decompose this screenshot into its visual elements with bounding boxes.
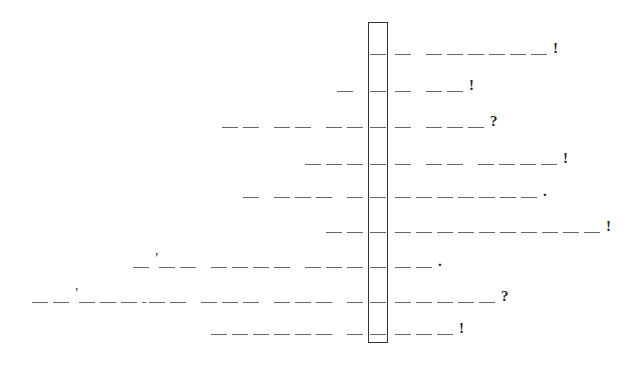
letter-blank[interactable]	[458, 290, 474, 303]
letter-blank[interactable]	[447, 152, 463, 165]
letter-blank[interactable]	[521, 220, 537, 233]
letter-blank[interactable]	[211, 255, 227, 268]
letter-blank[interactable]	[201, 290, 217, 303]
letter-blank[interactable]	[542, 220, 558, 233]
letter-blank[interactable]	[395, 115, 411, 128]
letter-blank[interactable]	[316, 290, 332, 303]
letter-blank[interactable]	[520, 152, 536, 165]
letter-blank[interactable]	[531, 42, 547, 55]
letter-blank[interactable]	[395, 290, 411, 303]
letter-blank[interactable]	[222, 115, 238, 128]
letter-blank[interactable]	[416, 185, 432, 198]
letter-blank[interactable]	[180, 255, 196, 268]
letter-blank[interactable]	[416, 255, 432, 268]
letter-blank[interactable]	[347, 115, 363, 128]
letter-blank[interactable]	[243, 115, 259, 128]
letter-blank[interactable]	[395, 42, 411, 55]
letter-blank[interactable]	[32, 290, 48, 303]
letter-blank[interactable]	[79, 290, 95, 303]
letter-blank[interactable]	[395, 185, 411, 198]
letter-blank[interactable]	[500, 220, 516, 233]
letter-blank[interactable]	[479, 290, 495, 303]
highlighted-letter-blank[interactable]	[370, 42, 386, 55]
letter-blank[interactable]	[232, 255, 248, 268]
letter-blank[interactable]	[316, 322, 332, 335]
letter-blank[interactable]	[426, 42, 442, 55]
letter-blank[interactable]	[159, 255, 175, 268]
highlighted-letter-blank[interactable]	[370, 220, 386, 233]
letter-blank[interactable]	[337, 79, 353, 92]
letter-blank[interactable]	[305, 152, 321, 165]
letter-blank[interactable]	[499, 152, 515, 165]
letter-blank[interactable]	[447, 115, 463, 128]
letter-blank[interactable]	[541, 152, 557, 165]
letter-blank[interactable]	[274, 115, 290, 128]
highlighted-letter-blank[interactable]	[370, 79, 386, 92]
letter-blank[interactable]	[295, 115, 311, 128]
letter-blank[interactable]	[521, 185, 537, 198]
letter-blank[interactable]	[426, 152, 442, 165]
highlighted-letter-blank[interactable]	[370, 322, 386, 335]
letter-blank[interactable]	[395, 79, 411, 92]
letter-blank[interactable]	[347, 220, 363, 233]
letter-blank[interactable]	[347, 255, 363, 268]
letter-blank[interactable]	[347, 290, 363, 303]
letter-blank[interactable]	[316, 185, 332, 198]
letter-blank[interactable]	[347, 322, 363, 335]
letter-blank[interactable]	[232, 322, 248, 335]
letter-blank[interactable]	[395, 220, 411, 233]
letter-blank[interactable]	[500, 185, 516, 198]
letter-blank[interactable]	[295, 290, 311, 303]
letter-blank[interactable]	[253, 322, 269, 335]
letter-blank[interactable]	[437, 290, 453, 303]
letter-blank[interactable]	[274, 290, 290, 303]
letter-blank[interactable]	[274, 255, 290, 268]
letter-blank[interactable]	[326, 220, 342, 233]
letter-blank[interactable]	[584, 220, 600, 233]
letter-blank[interactable]	[170, 290, 186, 303]
letter-blank[interactable]	[447, 79, 463, 92]
letter-blank[interactable]	[243, 185, 259, 198]
letter-blank[interactable]	[222, 290, 238, 303]
letter-blank[interactable]	[326, 115, 342, 128]
letter-blank[interactable]	[468, 115, 484, 128]
highlighted-letter-blank[interactable]	[370, 152, 386, 165]
letter-blank[interactable]	[326, 152, 342, 165]
letter-blank[interactable]	[253, 255, 269, 268]
letter-blank[interactable]	[426, 79, 442, 92]
letter-blank[interactable]	[458, 220, 474, 233]
letter-blank[interactable]	[563, 220, 579, 233]
letter-blank[interactable]	[347, 185, 363, 198]
highlighted-letter-blank[interactable]	[370, 290, 386, 303]
letter-blank[interactable]	[479, 185, 495, 198]
letter-blank[interactable]	[305, 255, 321, 268]
letter-blank[interactable]	[133, 255, 149, 268]
letter-blank[interactable]	[395, 322, 411, 335]
letter-blank[interactable]	[468, 42, 484, 55]
letter-blank[interactable]	[395, 255, 411, 268]
letter-blank[interactable]	[510, 42, 526, 55]
letter-blank[interactable]	[437, 322, 453, 335]
letter-blank[interactable]	[347, 152, 363, 165]
letter-blank[interactable]	[416, 220, 432, 233]
highlighted-letter-blank[interactable]	[370, 185, 386, 198]
letter-blank[interactable]	[447, 42, 463, 55]
letter-blank[interactable]	[211, 322, 227, 335]
letter-blank[interactable]	[149, 290, 165, 303]
letter-blank[interactable]	[100, 290, 116, 303]
letter-blank[interactable]	[489, 42, 505, 55]
highlighted-letter-blank[interactable]	[370, 115, 386, 128]
letter-blank[interactable]	[295, 185, 311, 198]
letter-blank[interactable]	[437, 185, 453, 198]
letter-blank[interactable]	[274, 185, 290, 198]
letter-blank[interactable]	[121, 290, 137, 303]
letter-blank[interactable]	[478, 152, 494, 165]
letter-blank[interactable]	[326, 255, 342, 268]
letter-blank[interactable]	[437, 220, 453, 233]
letter-blank[interactable]	[395, 152, 411, 165]
letter-blank[interactable]	[426, 115, 442, 128]
letter-blank[interactable]	[243, 290, 259, 303]
highlighted-letter-blank[interactable]	[370, 255, 386, 268]
letter-blank[interactable]	[274, 322, 290, 335]
letter-blank[interactable]	[479, 220, 495, 233]
